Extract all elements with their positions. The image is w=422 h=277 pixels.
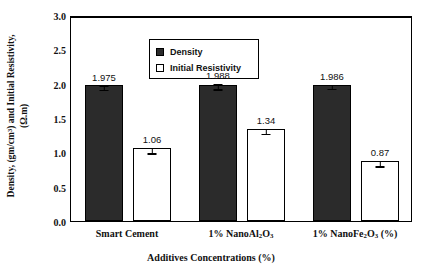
legend-item-density: Density bbox=[156, 44, 253, 59]
x-axis-title: Additives Concentrations (%) bbox=[0, 252, 422, 263]
y-tick-label: 0.0 bbox=[32, 217, 66, 228]
bar-density bbox=[85, 85, 123, 221]
x-tick-label-text: Smart Cement bbox=[96, 228, 158, 239]
error-bar bbox=[100, 86, 109, 91]
figure: Density, (gm/cm3) and Initial Resistivit… bbox=[0, 0, 422, 277]
error-bar-cap-bottom bbox=[328, 89, 337, 90]
value-label-density: 1.986 bbox=[320, 71, 344, 82]
bar-initial-resistivity bbox=[247, 129, 285, 221]
error-bar-cap-bottom bbox=[148, 153, 157, 154]
error-bar-cap-bottom bbox=[100, 90, 109, 91]
legend-label-density: Density bbox=[170, 47, 203, 57]
error-bar bbox=[262, 129, 271, 136]
y-axis-title-line1-pre: Density, (gm/cm bbox=[7, 132, 17, 197]
x-tick-label-text: 1% NanoFe bbox=[313, 228, 364, 239]
x-tick-label: 1% NanoAl2O3 bbox=[209, 228, 274, 239]
error-bar bbox=[376, 161, 385, 168]
y-axis-title-line1-tail: ) and Initial Resistivity, bbox=[7, 34, 17, 129]
y-axis-title: Density, (gm/cm3) and Initial Resistivit… bbox=[0, 0, 34, 232]
bar-density bbox=[313, 85, 351, 221]
legend-swatch-resistivity-icon bbox=[156, 64, 164, 72]
value-label-initial-resistivity: 0.87 bbox=[371, 147, 390, 158]
error-bar bbox=[148, 148, 157, 155]
x-tick-label-text: 1% NanoAl bbox=[209, 228, 259, 239]
y-axis-title-line2: (Ω.m) bbox=[18, 34, 30, 197]
error-bar bbox=[328, 85, 337, 90]
value-label-initial-resistivity: 1.06 bbox=[143, 134, 162, 145]
error-bar-cap-bottom bbox=[376, 166, 385, 167]
bar-initial-resistivity bbox=[361, 161, 399, 221]
bar-initial-resistivity bbox=[133, 148, 171, 221]
value-label-density: 1.988 bbox=[206, 70, 230, 81]
y-tick-label: 0.5 bbox=[32, 182, 66, 193]
value-label-initial-resistivity: 1.34 bbox=[257, 115, 276, 126]
y-tick-label: 2.5 bbox=[32, 45, 66, 56]
y-tick-label: 3.0 bbox=[32, 11, 66, 22]
y-tick-label: 1.5 bbox=[32, 114, 66, 125]
x-tick-label: Smart Cement bbox=[96, 228, 158, 239]
y-axis-title-superscript: 3 bbox=[6, 129, 13, 132]
error-bar-cap-bottom bbox=[214, 89, 223, 90]
plot-area: Density Initial Resistivity 1.9751.061.9… bbox=[70, 16, 412, 222]
error-bar-cap-bottom bbox=[262, 134, 271, 135]
legend-item-initial-resistivity: Initial Resistivity bbox=[156, 60, 253, 75]
x-tick-label: 1% NanoFe2O3 (%) bbox=[313, 228, 398, 239]
y-tick-label: 1.0 bbox=[32, 148, 66, 159]
value-label-density: 1.975 bbox=[92, 72, 116, 83]
error-bar bbox=[214, 84, 223, 90]
legend: Density Initial Resistivity bbox=[149, 39, 259, 79]
y-tick-label: 2.0 bbox=[32, 79, 66, 90]
legend-swatch-density-icon bbox=[156, 48, 164, 56]
bar-density bbox=[199, 85, 237, 222]
